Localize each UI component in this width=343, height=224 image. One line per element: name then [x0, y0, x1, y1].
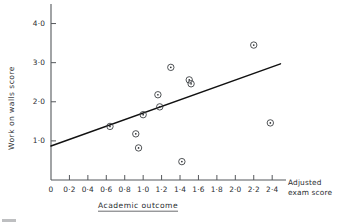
y-axis-title-group: Work on walls score [7, 66, 16, 150]
y-axis-title: Work on walls score [7, 66, 16, 150]
data-point [251, 42, 257, 48]
data-point [133, 131, 139, 137]
scatter-plot-figure: 1·02·03·04·0 00·20·40·60·81·01·21·41·61·… [0, 0, 343, 224]
data-point [155, 92, 161, 98]
data-point-center-dot [109, 126, 111, 128]
data-point-center-dot [159, 106, 161, 108]
data-point [135, 145, 141, 151]
x-tick-label: 0·8 [119, 185, 131, 194]
x-tick-label: 1·6 [192, 185, 204, 194]
data-point-center-dot [135, 133, 137, 135]
x-axis-end-label-line1: Adjusted [288, 178, 322, 187]
data-point [186, 77, 192, 83]
x-tick-label: 2·4 [266, 185, 278, 194]
data-point-center-dot [181, 161, 183, 163]
scan-corner-mark [2, 219, 16, 222]
x-tick-label: 2·0 [229, 185, 241, 194]
y-tick-label: 4·0 [33, 19, 45, 28]
data-point-center-dot [190, 83, 192, 85]
x-tick-label: 1·0 [137, 185, 149, 194]
data-point-center-dot [170, 67, 172, 69]
x-tick-label: 1·8 [211, 185, 223, 194]
y-tick-label: 3·0 [33, 58, 45, 67]
data-point-center-dot [138, 147, 140, 149]
x-tick-label: 1·2 [155, 185, 167, 194]
x-tick-label: 0 [49, 185, 54, 194]
data-point [267, 120, 273, 126]
y-tick-label: 1·0 [33, 136, 45, 145]
axes [51, 4, 286, 180]
data-point-group [107, 42, 274, 165]
plot-canvas: 1·02·03·04·0 00·20·40·60·81·01·21·41·61·… [0, 0, 343, 224]
data-point-center-dot [269, 122, 271, 124]
x-axis-title-group: Academic outcome [98, 201, 178, 211]
regression-line [51, 64, 280, 146]
data-point-center-dot [157, 94, 159, 96]
data-point-center-dot [253, 44, 255, 46]
y-tick-label: 2·0 [33, 97, 45, 106]
x-tick-label: 1·4 [174, 185, 186, 194]
data-point [188, 81, 194, 87]
data-point-center-dot [142, 114, 144, 116]
x-tick-label: 0·4 [82, 185, 94, 194]
x-axis-end-label-group: Adjusted exam score [288, 178, 333, 197]
x-axis-title: Academic outcome [98, 201, 178, 210]
data-point [179, 158, 185, 164]
x-tick-label: 2·2 [248, 185, 260, 194]
x-axis-tick-labels: 00·20·40·60·81·01·21·41·61·82·02·22·4 [49, 185, 279, 194]
x-tick-label: 0·6 [100, 185, 112, 194]
y-axis-ticks [51, 24, 56, 141]
x-tick-label: 0·2 [63, 185, 75, 194]
data-point [168, 64, 174, 70]
y-axis-tick-labels: 1·02·03·04·0 [33, 19, 45, 145]
x-axis-ticks [69, 175, 272, 180]
x-axis-end-label-line2: exam score [288, 188, 333, 197]
